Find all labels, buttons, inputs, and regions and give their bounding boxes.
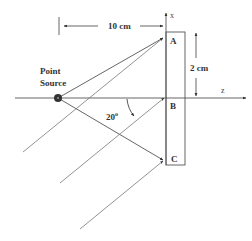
source-label-line2: Source [40, 78, 66, 88]
detector-plate [166, 32, 185, 165]
source-label-line1: Point [40, 66, 61, 76]
parallel-ray-to-C [80, 161, 163, 229]
distance-label: 10 cm [108, 21, 131, 31]
x-axis-label: x [170, 11, 174, 20]
ray-source-to-A [58, 38, 163, 98]
parallel-ray-to-A [23, 38, 163, 152]
ray-source-to-C [58, 98, 163, 160]
z-axis-label: z [221, 86, 225, 95]
angle-arc [127, 99, 134, 116]
point-A-label: A [170, 36, 177, 46]
angle-label: 20o [106, 111, 118, 122]
point-source-diagram: z x 10 cm 2 cm 20o Point Source A B C [0, 0, 252, 241]
parallel-ray-to-B [60, 98, 164, 183]
point-C-label: C [171, 154, 178, 164]
point-source-center [57, 97, 59, 99]
point-B-label: B [170, 101, 176, 111]
height-label: 2 cm [190, 63, 209, 73]
